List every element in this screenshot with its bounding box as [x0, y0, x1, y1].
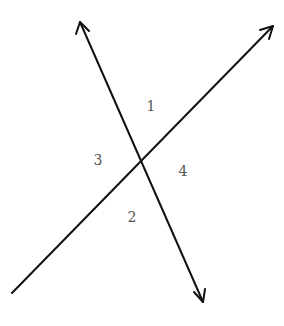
line-b [12, 26, 273, 293]
angle-label-4: 4 [179, 163, 188, 179]
angle-label-2: 2 [128, 209, 137, 225]
angle-label-3: 3 [94, 152, 103, 168]
intersecting-lines-diagram: 1 3 4 2 [0, 0, 284, 326]
angle-label-1: 1 [147, 98, 156, 114]
